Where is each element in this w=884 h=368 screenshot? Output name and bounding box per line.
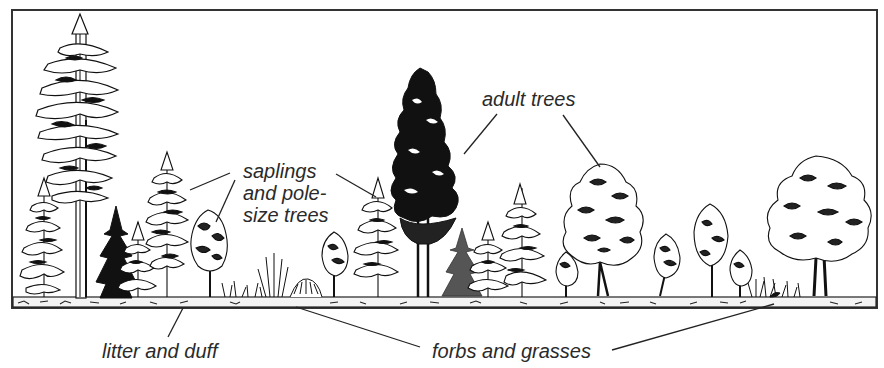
forbs-grasses-cluster — [222, 253, 322, 297]
label-saplings-line2: and pole- — [243, 182, 329, 204]
leader-saplings-2 — [216, 180, 235, 222]
label-saplings-line1: saplings — [243, 160, 329, 182]
sapling-conifer-tree — [146, 152, 188, 297]
forbs-grasses-cluster — [748, 277, 800, 297]
leader-forbs-2 — [612, 304, 774, 350]
sapling-conifer-tree — [354, 178, 398, 297]
sapling-conifer-tree — [500, 184, 546, 297]
young-deciduous-tree — [654, 234, 680, 296]
adult-deciduous-tree — [767, 156, 871, 296]
label-forbs-and-grasses: forbs and grasses — [432, 340, 591, 362]
adult-conifer-tree — [391, 68, 458, 297]
leader-saplings-3 — [336, 174, 376, 197]
label-saplings: saplings and pole- size trees — [243, 160, 329, 226]
forest-layers-illustration: adult trees saplings and pole- size tree… — [0, 0, 884, 368]
ground-litter — [13, 297, 876, 307]
label-litter-and-duff: litter and duff — [102, 340, 218, 362]
leader-adult-2 — [563, 115, 600, 167]
label-saplings-line3: size trees — [243, 204, 329, 226]
young-deciduous-tree — [730, 250, 752, 297]
leader-lines — [168, 114, 774, 350]
leader-litter — [168, 308, 183, 337]
young-deciduous-tree — [322, 232, 348, 297]
leader-forbs-1 — [296, 307, 420, 347]
young-deciduous-tree — [694, 204, 728, 297]
leader-adult-1 — [464, 114, 497, 154]
leader-saplings-1 — [190, 173, 230, 190]
label-adult-trees: adult trees — [482, 88, 575, 110]
illustration-canvas — [0, 0, 884, 368]
